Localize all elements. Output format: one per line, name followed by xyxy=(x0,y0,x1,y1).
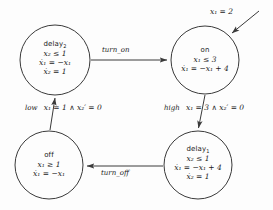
state-flow1-off: ẋ₁ = −x₁ xyxy=(9,170,89,179)
state-label-delay2: delay2 x₂ ≤ 1 ẋ₁ = −x₁ ẋ₂ = 1 xyxy=(15,40,95,77)
state-label-on: on x₁ ≤ 3 ẋ₁ = −x₁ + 4 xyxy=(165,46,245,74)
transition-label-delay2-to-on: turn_on xyxy=(102,46,129,54)
transition-event-turn-on: turn_on xyxy=(102,46,129,54)
initial-state-arrow[interactable] xyxy=(232,11,259,33)
state-flow1-on: ẋ₁ = −x₁ + 4 xyxy=(165,65,245,74)
state-label-delay1: delay1 x₂ ≤ 1 ẋ₁ = −x₁ + 4 ẋ₂ = 1 xyxy=(158,145,238,182)
transition-guard-high: x₁ = 3 ∧ x₂′ = 0 xyxy=(186,103,244,112)
transition-event-low: low xyxy=(25,104,37,112)
initial-condition: x₁ = 2 xyxy=(210,7,233,16)
transition-label-off-to-delay2: low x₁ = 1 ∧ x₂′ = 0 xyxy=(25,103,102,112)
transition-guard-low: x₁ = 1 ∧ x₂′ = 0 xyxy=(44,103,102,112)
transition-label-on-to-delay1: high x₁ = 3 ∧ x₂′ = 0 xyxy=(164,103,244,112)
transition-label-delay1-to-off: turn_off xyxy=(101,169,129,177)
initial-state-label: x₁ = 2 xyxy=(210,7,233,16)
state-flow2-delay2: ẋ₂ = 1 xyxy=(15,68,95,77)
state-flow2-delay1: ẋ₂ = 1 xyxy=(158,173,238,182)
transition-event-turn-off: turn_off xyxy=(101,169,129,177)
transition-event-high: high xyxy=(164,104,180,112)
state-machine-diagram: delay2 x₂ ≤ 1 ẋ₁ = −x₁ ẋ₂ = 1 on x₁ ≤ 3 … xyxy=(0,0,273,210)
state-label-off: off x₁ ≥ 1 ẋ₁ = −x₁ xyxy=(9,151,89,179)
